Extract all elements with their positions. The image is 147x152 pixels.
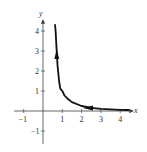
y-tick-labels: 4 3 2 1 −1: [31, 27, 40, 136]
y-tick-label: 3: [35, 47, 39, 56]
y-tick-label: 1: [35, 87, 39, 96]
direction-arrow-up-icon: [54, 49, 59, 59]
x-tick-label: 2: [80, 115, 84, 124]
x-tick-label: −1: [19, 115, 28, 124]
graph-plot: x y −1 1 2 3 4 4 3 2 1 −1: [0, 0, 147, 152]
x-tick-label: 4: [118, 115, 122, 124]
y-axis-label: y: [38, 9, 43, 18]
y-tick-label: 2: [35, 67, 39, 76]
x-tick-label: 1: [60, 115, 64, 124]
curve-series: [55, 25, 129, 110]
y-tick-label: −1: [31, 127, 40, 136]
y-tick-label: 4: [35, 27, 39, 36]
x-tick-label: 3: [99, 115, 103, 124]
x-axis-label: x: [133, 106, 138, 115]
x-tick-labels: −1 1 2 3 4: [19, 115, 123, 124]
